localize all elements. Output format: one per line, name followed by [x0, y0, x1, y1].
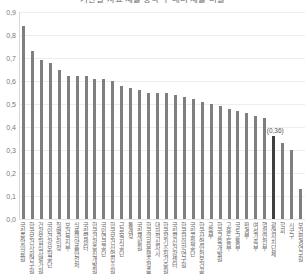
x-axis-tick-label: 한국건강증진개발원: [91, 222, 97, 274]
x-axis-tick-label: 한국장기조직기증원: [163, 222, 169, 274]
x-axis-tick-label: 국민건강보험공단: [47, 222, 53, 274]
x-axis-tick-label: 시군구: [288, 222, 294, 274]
x-axis-tick-label: 국립정신건강센터: [172, 222, 178, 274]
bar[interactable]: [93, 79, 96, 219]
x-axis-tick-label: 보건복지부: [65, 222, 71, 274]
bar[interactable]: [245, 113, 248, 219]
x-axis-tick-label: 환경부: [243, 222, 249, 274]
x-axis-tick-label: 식품의약품안전처: [74, 222, 80, 274]
bar-slot: [73, 12, 82, 219]
x-axis-labels: 국립중앙의료원한국보건사회연구원건강보험심사평가원국민건강보험공단질병관리청보건…: [19, 222, 305, 275]
bar[interactable]: [254, 116, 257, 220]
bar[interactable]: [290, 150, 293, 219]
bar-slot: [207, 12, 216, 219]
x-axis-tick-label: 국민연금공단: [100, 222, 106, 274]
bar[interactable]: [156, 93, 159, 220]
x-axis-tick-label: 한국보건산업진흥원: [109, 222, 115, 274]
x-axis-tick-label: 고용노동부: [226, 222, 232, 274]
bar[interactable]: [49, 63, 52, 219]
bar-slot: [216, 12, 225, 219]
bar[interactable]: [281, 143, 284, 219]
bar-slot: [46, 12, 55, 219]
bar[interactable]: [58, 70, 61, 220]
x-axis-baseline: [19, 219, 305, 220]
x-axis-tick-label: 질병관리청: [56, 222, 62, 274]
bar-slot: [189, 12, 198, 219]
bar-value-label: (0,36): [267, 127, 284, 134]
bar[interactable]: [120, 86, 123, 219]
bar[interactable]: [129, 88, 132, 219]
bar[interactable]: [228, 109, 231, 219]
x-axis-tick-label: 국립암센터: [83, 222, 89, 274]
bar[interactable]: [165, 93, 168, 220]
x-axis-tick-label: 교육부: [208, 222, 214, 274]
bar-slot: [278, 12, 287, 219]
bar[interactable]: [111, 81, 114, 219]
x-axis-tick-label: 한국산업안전보건공단: [199, 222, 205, 274]
x-axis-tick-label: 국토교통부: [234, 222, 240, 274]
bar-slot: [28, 12, 37, 219]
x-axis-tick-label: 여성가족부: [252, 222, 258, 274]
bar[interactable]: [40, 60, 43, 219]
bar-slot: [242, 12, 251, 219]
x-axis-tick-label: 국립중앙의료원: [20, 222, 26, 274]
bar-slot: [198, 12, 207, 219]
x-axis-tick-label: 한국교육개발원: [217, 222, 223, 274]
bar-slot: [162, 12, 171, 219]
bar-slot: [126, 12, 135, 219]
x-axis-tick-label: 행정안전부: [261, 222, 267, 274]
bar-slot: [153, 12, 162, 219]
bar[interactable]: [138, 90, 141, 219]
bar-slot: [251, 12, 260, 219]
bar[interactable]: [192, 99, 195, 219]
bar-slot: [99, 12, 108, 219]
bar-slot: [91, 12, 100, 219]
bar-slot: [225, 12, 234, 219]
x-axis-tick-label: 학회: [279, 222, 285, 274]
x-axis-tick-label: 통계청: [127, 222, 133, 274]
bar[interactable]: [299, 189, 302, 219]
x-axis-tick-label: 국립재활원: [136, 222, 142, 274]
bar-slot: [37, 12, 46, 219]
x-axis-tick-label: 근로복지공단: [118, 222, 124, 274]
x-axis-tick-label: 한국보건사회연구원: [29, 222, 35, 274]
bar-slot: [287, 12, 296, 219]
bar[interactable]: [67, 76, 70, 219]
bar-slot: [260, 12, 269, 219]
bar-slot: [19, 12, 28, 219]
bar-highlighted[interactable]: [272, 136, 275, 219]
x-axis-tick-label: 국립공원공단: [190, 222, 196, 274]
bar-slot: [234, 12, 243, 219]
bar-slot: [82, 12, 91, 219]
bar-slot: [108, 12, 117, 219]
bar-slot: [64, 12, 73, 219]
bar-slot: [55, 12, 64, 219]
x-axis-tick-label: 건강보험심사평가원: [38, 222, 44, 274]
bars-container: (0,36): [19, 12, 305, 219]
bar-chart: 기관별 자료 제출 항목 수 대비 제출 비율 0,90,80,70,60,50…: [0, 0, 305, 275]
bar-slot: [296, 12, 305, 219]
bar-slot: [180, 12, 189, 219]
bar-slot: [135, 12, 144, 219]
bar[interactable]: [201, 102, 204, 219]
bar[interactable]: [183, 97, 186, 219]
bar[interactable]: [174, 95, 177, 219]
x-axis-tick-label: 보건환경연구원: [297, 222, 303, 274]
bar-slot: [117, 12, 126, 219]
bar[interactable]: [85, 76, 88, 219]
bar[interactable]: [219, 106, 222, 219]
bar[interactable]: [22, 26, 25, 219]
bar[interactable]: [236, 111, 239, 219]
bar-slot: [171, 12, 180, 219]
x-axis-tick-label: 대한적십자사: [154, 222, 160, 274]
bar-slot: [269, 12, 278, 219]
bar[interactable]: [31, 51, 34, 219]
bar[interactable]: [210, 104, 213, 219]
bar-slot: [144, 12, 153, 219]
bar[interactable]: [76, 76, 79, 219]
bar[interactable]: [147, 93, 150, 220]
bar[interactable]: [102, 79, 105, 219]
x-axis-tick-label: 한국의료분쟁조정중재원: [145, 222, 151, 274]
x-axis-tick-label: 광역자치단체: [270, 222, 276, 274]
x-axis-tick-label: 한국한의학연구원: [181, 222, 187, 274]
